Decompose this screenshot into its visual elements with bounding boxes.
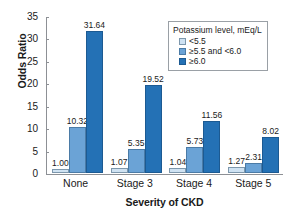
- legend-color-swatch: [179, 48, 186, 55]
- legend-title: Potassium level, mEq/L: [173, 25, 262, 35]
- bar[interactable]: [203, 121, 220, 173]
- bar[interactable]: [69, 127, 86, 173]
- bar-value-label: 1.04: [170, 158, 187, 167]
- x-category-label: Stage 5: [224, 177, 283, 189]
- bar-value-label: 5.35: [128, 139, 145, 148]
- odds-ratio-bar-chart: Odds Ratio 35302520151050 1.0010.3231.64…: [0, 0, 291, 222]
- legend-item-label: <5.5: [189, 36, 206, 46]
- bar[interactable]: [128, 149, 145, 173]
- bar-slot: 19.52: [145, 17, 162, 173]
- bar[interactable]: [52, 169, 69, 173]
- bar-value-label: 5.73: [187, 137, 204, 146]
- bar-value-label: 8.02: [262, 127, 279, 136]
- bar-group: 1.075.3519.52: [107, 17, 166, 173]
- bar-slot: 10.32: [69, 17, 86, 173]
- y-tick-label: 35: [6, 12, 38, 22]
- bar-value-label: 11.56: [202, 111, 223, 120]
- y-tick-label: 20: [6, 79, 38, 89]
- bar-slot: 1.07: [111, 17, 128, 173]
- y-axis-ticks: 35302520151050: [0, 0, 46, 222]
- legend: Potassium level, mEq/L <5.5≥5.5 and <6.0…: [168, 21, 268, 71]
- y-tick-label: 30: [6, 34, 38, 44]
- y-tick-label: 10: [6, 124, 38, 134]
- x-category-label: None: [46, 177, 105, 189]
- legend-items: <5.5≥5.5 and <6.0≥6.0: [173, 36, 262, 66]
- y-tick-label: 5: [6, 147, 38, 157]
- legend-color-swatch: [179, 38, 186, 45]
- bar-value-label: 10.32: [67, 117, 88, 126]
- bar[interactable]: [186, 147, 203, 173]
- x-category-label: Stage 3: [105, 177, 164, 189]
- legend-color-swatch: [179, 58, 186, 65]
- legend-item-label: ≥5.5 and <6.0: [189, 46, 241, 56]
- bar-value-label: 31.64: [84, 21, 105, 30]
- legend-item[interactable]: ≥6.0: [179, 56, 262, 66]
- y-tick-label: 25: [6, 57, 38, 67]
- bar[interactable]: [111, 168, 128, 173]
- bar-value-label: 2.31: [245, 153, 262, 162]
- bar-slot: 31.64: [86, 17, 103, 173]
- bar[interactable]: [262, 137, 279, 173]
- bar-group: 1.0010.3231.64: [48, 17, 107, 173]
- legend-item[interactable]: <5.5: [179, 36, 262, 46]
- bar[interactable]: [245, 163, 262, 173]
- x-category-label: Stage 4: [165, 177, 224, 189]
- bar-value-label: 1.00: [52, 159, 69, 168]
- bar-value-label: 1.27: [228, 157, 245, 166]
- y-tick-label: 0: [6, 169, 38, 179]
- bar-value-label: 1.07: [111, 158, 128, 167]
- x-axis-title: Severity of CKD: [46, 196, 283, 208]
- bar-slot: 1.00: [52, 17, 69, 173]
- x-axis-category-labels: NoneStage 3Stage 4Stage 5: [46, 177, 283, 189]
- bar[interactable]: [228, 167, 245, 173]
- bar-value-label: 19.52: [142, 75, 163, 84]
- legend-item-label: ≥6.0: [189, 56, 205, 66]
- bar[interactable]: [145, 85, 162, 173]
- legend-item[interactable]: ≥5.5 and <6.0: [179, 46, 262, 56]
- bar-slot: 5.35: [128, 17, 145, 173]
- bar[interactable]: [86, 31, 103, 173]
- y-tick-label: 15: [6, 102, 38, 112]
- bar[interactable]: [169, 168, 186, 173]
